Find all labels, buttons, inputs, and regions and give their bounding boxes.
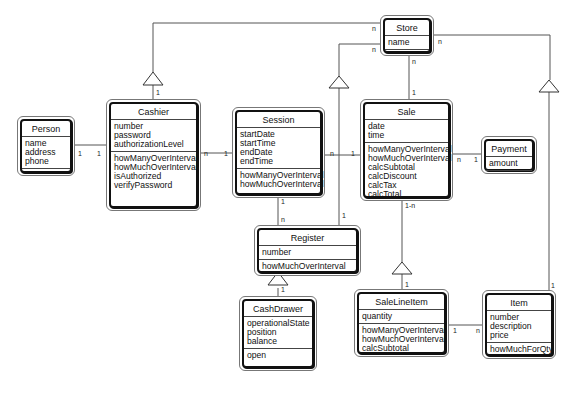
operations: howManyOverInterval howMuchOverInterval … (111, 152, 196, 192)
class-cashier[interactable]: Cashier number password authorizationLev… (106, 99, 201, 211)
class-title: Session (237, 112, 320, 128)
class-title: Item (487, 295, 551, 311)
attributes: date time (365, 120, 448, 143)
attribute: number (262, 248, 353, 257)
operations: open (244, 349, 312, 362)
mult-sale-payment: n (457, 156, 461, 164)
operations (486, 171, 532, 174)
aggregation-triangle-salelineitem (392, 262, 412, 274)
attribute: amount (489, 159, 529, 168)
class-title: Cashier (111, 104, 196, 120)
mult-session-register: 1 (281, 198, 285, 206)
attribute: price (490, 331, 548, 340)
attribute: time (368, 131, 445, 140)
operation: howMuchOverInterval (262, 262, 353, 271)
class-title: Person (22, 121, 70, 137)
class-store[interactable]: Store name (380, 15, 434, 56)
attribute: endTime (240, 157, 317, 166)
mult-salelineitem-sale: 1 (405, 281, 409, 289)
attribute: quantity (362, 312, 441, 321)
attributes: operationalState position balance (244, 317, 312, 349)
operation: calcSubtotal (362, 344, 441, 353)
class-register[interactable]: Register number howMuchOverInterval (254, 225, 361, 276)
operations (22, 169, 70, 172)
mult-item-salelineitem: n (476, 327, 480, 335)
mult-store-register: n (372, 46, 376, 54)
operations: howMuchOverInterval (259, 260, 356, 273)
mult-store-item: n (438, 38, 442, 46)
operation: howMuchOverInterval (240, 180, 317, 189)
class-payment[interactable]: Payment amount (481, 136, 537, 174)
class-item[interactable]: Item number description price howMuchFor… (482, 290, 556, 359)
attribute: authorizationLevel (114, 140, 193, 149)
class-sale[interactable]: Sale date time howManyOverInterval howMu… (360, 99, 453, 201)
operation: howMuchForQty (490, 345, 548, 354)
mult-item-store: 1 (551, 282, 555, 290)
class-title: Sale (365, 104, 448, 120)
aggregation-triangle-cashier (143, 72, 163, 85)
mult-register-store: 1 (342, 212, 346, 220)
mult-sale-store: 1 (412, 89, 416, 97)
attributes: number (259, 246, 356, 260)
mult-register-session: n (281, 216, 285, 224)
mult-cashier-person: 1 (97, 150, 101, 158)
mult-store-sale: n (412, 58, 416, 66)
mult-sale-salelineitem: 1-n (405, 202, 415, 210)
operations: howManyOverInterval howMuchOverInterval … (365, 143, 448, 201)
attribute: balance (247, 337, 309, 346)
attributes: amount (486, 157, 532, 171)
mult-store-cashier: n (372, 25, 376, 33)
mult-salelineitem-item: 1 (453, 327, 457, 335)
class-session[interactable]: Session startDate startTime endDate endT… (232, 107, 325, 198)
class-salelineitem[interactable]: SaleLineItem quantity howManyOverInterva… (354, 289, 449, 357)
aggregation-triangle-item (539, 80, 559, 92)
mult-session-sale: n (330, 150, 334, 158)
class-cashdrawer[interactable]: CashDrawer operationalState position bal… (239, 296, 317, 371)
operations: howManyOverInterval howMuchOverInterval … (359, 324, 444, 355)
operations: howMuchForQty (487, 343, 551, 356)
mult-cashier-store: 1 (156, 89, 160, 97)
class-title: CashDrawer (244, 301, 312, 317)
class-person[interactable]: Person name address phone (17, 116, 75, 176)
operation: calcTotal (368, 190, 445, 199)
class-title: SaleLineItem (359, 294, 444, 310)
mult-sale-session: 1 (351, 150, 355, 158)
attribute: phone (25, 157, 67, 166)
operations: howManyOverInterval howMuchOverInterval (237, 169, 320, 191)
operation: open (247, 351, 309, 360)
store-item-line (433, 35, 550, 80)
mult-cashier-session: n (204, 150, 208, 158)
class-title: Register (259, 230, 356, 246)
attributes: number password authorizationLevel (111, 120, 196, 152)
aggregation-triangle-register (329, 76, 349, 88)
operations (385, 50, 429, 53)
mult-session-cashier: 1 (224, 150, 228, 158)
attributes: startDate startTime endDate endTime (237, 128, 320, 169)
attributes: name (385, 36, 429, 50)
mult-payment-sale: 1 (474, 156, 478, 164)
class-title: Store (385, 20, 429, 36)
mult-cashdrawer-register: 1 (281, 286, 285, 294)
operation: verifyPassword (114, 181, 193, 190)
attribute: name (388, 38, 426, 47)
class-title: Payment (486, 141, 532, 157)
attributes: quantity (359, 310, 444, 324)
store-cashier-line (153, 23, 381, 72)
attributes: name address phone (22, 137, 70, 169)
attributes: number description price (487, 311, 551, 343)
mult-person-cashier: 1 (78, 150, 82, 158)
